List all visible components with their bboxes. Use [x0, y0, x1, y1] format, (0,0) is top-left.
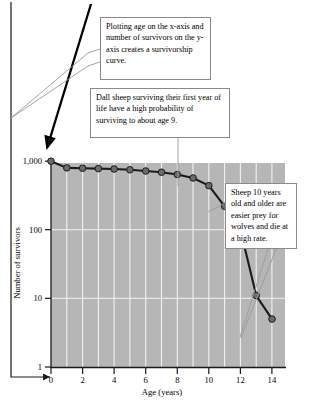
data-point: [79, 165, 86, 172]
x-tick-label-0: 0: [41, 375, 61, 385]
x-tick-label-2: 2: [73, 375, 93, 385]
x-tick-label-6: 6: [136, 375, 156, 385]
survivorship-figure: 1,000 100 10 1 0 2 4 6 8 10 12 14 Number…: [0, 0, 311, 405]
callout-early-survival: Dall sheep surviving their first year of…: [90, 88, 230, 138]
data-point: [127, 166, 134, 173]
data-point: [63, 165, 70, 172]
y-axis-ticks: [45, 161, 51, 367]
data-point: [190, 175, 197, 182]
x-tick-label-14: 14: [262, 375, 282, 385]
data-point: [206, 182, 213, 189]
data-point: [48, 158, 55, 165]
data-point: [142, 168, 149, 175]
figure-frame: [11, 2, 50, 380]
y-tick-label-1000: 1,000: [0, 156, 42, 166]
data-point: [95, 165, 102, 172]
x-tick-label-10: 10: [199, 375, 219, 385]
y-axis-title: Number of survivors: [12, 217, 22, 309]
data-point: [158, 169, 165, 176]
x-axis-title: Age (years): [112, 387, 212, 397]
callout-predation-mortality: Sheep 10 years old and older are easier …: [225, 183, 297, 249]
data-point: [174, 171, 181, 178]
x-axis-ticks: [51, 368, 272, 375]
y-tick-label-1: 1: [0, 362, 42, 372]
x-tick-label-4: 4: [104, 375, 124, 385]
data-point: [111, 166, 118, 173]
data-point: [269, 316, 276, 323]
callout-axes-explanation: Plotting age on the x-axis and number of…: [100, 17, 211, 80]
x-tick-label-8: 8: [167, 375, 187, 385]
x-tick-label-12: 12: [230, 375, 250, 385]
emphasis-arrow: [44, 4, 91, 150]
